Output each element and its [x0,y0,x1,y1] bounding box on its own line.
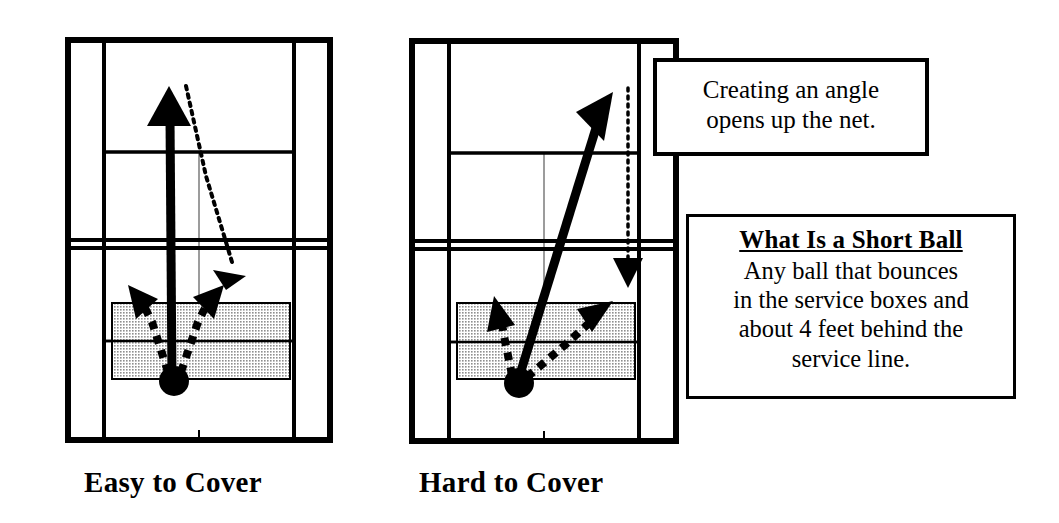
shot-arrow-shaft [170,118,172,382]
callout-creating-an-angle: Creating an angle opens up the net. [653,58,929,156]
player-position-dot [504,368,534,398]
callout-shortball-line1: Any ball that bounces [689,256,1013,285]
easy-to-cover-court [68,40,330,440]
callout-angle-line2: opens up the net. [657,105,925,135]
opponent-recovery-path [186,86,232,262]
callout-shortball-heading: What Is a Short Ball [689,225,1013,255]
opponent-recovery-arrowhead [213,270,246,290]
callout-what-is-a-short-ball: What Is a Short Ball Any ball that bounc… [686,214,1016,399]
shot-arrow-head [147,86,191,126]
player-position-dot [159,366,189,396]
caption-easy-to-cover: Easy to Cover [84,466,262,499]
caption-hard-to-cover: Hard to Cover [419,466,603,499]
callout-shortball-line2: in the service boxes and [689,285,1013,314]
hard-to-cover-court [412,41,676,441]
callout-shortball-line3: about 4 feet behind the [689,314,1013,343]
callout-shortball-line4: service line. [689,344,1013,373]
diagram-canvas: Creating an angle opens up the net. What… [0,0,1059,523]
callout-angle-line1: Creating an angle [657,75,925,105]
